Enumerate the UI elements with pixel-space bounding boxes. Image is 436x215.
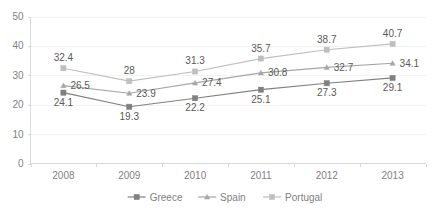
x-tick-label: 2010 xyxy=(184,170,207,181)
data-point-marker xyxy=(192,69,197,74)
data-point-marker xyxy=(324,47,329,52)
line-chart: 01020304050 200820092010201120122013 24.… xyxy=(0,0,436,215)
data-point-marker xyxy=(127,104,132,109)
data-point-marker xyxy=(258,87,263,92)
y-tick-label: 50 xyxy=(12,11,24,22)
data-label: 38.7 xyxy=(317,34,337,45)
data-label: 30.8 xyxy=(268,67,288,78)
data-label: 26.5 xyxy=(70,80,90,91)
data-point-marker xyxy=(134,194,139,199)
data-point-marker xyxy=(258,56,263,61)
y-tick-label: 10 xyxy=(12,129,24,140)
data-label: 32.4 xyxy=(54,52,74,63)
data-point-marker xyxy=(270,194,275,199)
chart-canvas: 01020304050 200820092010201120122013 24.… xyxy=(0,0,436,215)
data-label: 23.9 xyxy=(136,88,156,99)
data-point-marker xyxy=(390,75,395,80)
data-label: 25.1 xyxy=(251,94,271,105)
legend-label: Spain xyxy=(220,192,246,203)
data-point-marker xyxy=(390,41,395,46)
data-label: 31.3 xyxy=(185,55,205,66)
x-tick-label: 2011 xyxy=(250,170,272,181)
y-tick-label: 20 xyxy=(12,99,24,110)
x-tick-label: 2013 xyxy=(381,170,404,181)
x-tick-label: 2012 xyxy=(316,170,339,181)
y-tick-label: 0 xyxy=(18,158,24,169)
chart-legend: GreeceSpainPortugal xyxy=(128,192,323,203)
data-label: 34.1 xyxy=(400,58,420,69)
legend-label: Portugal xyxy=(285,192,322,203)
data-label: 19.3 xyxy=(120,111,140,122)
data-label: 27.4 xyxy=(202,77,222,88)
x-tick-label: 2009 xyxy=(118,170,141,181)
data-label: 28 xyxy=(124,65,136,76)
data-point-marker xyxy=(192,96,197,101)
data-label: 27.3 xyxy=(317,87,337,98)
x-tick-label: 2008 xyxy=(52,170,75,181)
y-tick-label: 40 xyxy=(12,40,24,51)
data-label: 35.7 xyxy=(251,43,271,54)
data-label: 24.1 xyxy=(54,97,74,108)
data-label: 32.7 xyxy=(334,62,354,73)
data-point-marker xyxy=(324,81,329,86)
data-label: 22.2 xyxy=(185,102,205,113)
legend-label: Greece xyxy=(150,192,183,203)
data-point-marker xyxy=(61,90,66,95)
data-label: 29.1 xyxy=(383,82,403,93)
data-point-marker xyxy=(61,66,66,71)
y-tick-label: 30 xyxy=(12,70,24,81)
data-label: 40.7 xyxy=(383,28,403,39)
data-point-marker xyxy=(127,79,132,84)
